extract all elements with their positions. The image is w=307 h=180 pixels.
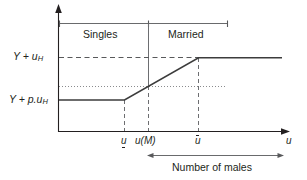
- payoff-curve: [59, 58, 282, 100]
- y-tick-upper-subscript: H: [38, 54, 43, 63]
- y-tick-label-upper: Y + uH: [13, 51, 43, 63]
- x-tick-u-lower-glyph: u: [121, 136, 127, 146]
- region-label-singles: Singles: [83, 29, 117, 40]
- caption-arrow-group: [147, 153, 284, 158]
- underbar-accent: [122, 147, 126, 148]
- x-axis-arrowhead: [281, 128, 290, 135]
- chart-canvas: [0, 0, 307, 180]
- x-tick-u-upper-base: u: [195, 135, 201, 146]
- x-axis-name-label: u: [286, 136, 292, 146]
- y-axis-arrowhead: [55, 4, 62, 13]
- caption-arrow-right-head: [278, 153, 285, 158]
- x-tick-u-upper-glyph: u: [195, 136, 201, 146]
- guide-lines-group: [59, 58, 226, 132]
- y-tick-lower-prefix: Y + p.u: [9, 93, 42, 105]
- caption-arrow-left-head: [147, 153, 154, 158]
- region-label-married: Married: [168, 29, 204, 40]
- x-tick-label-um: u(M): [135, 136, 156, 146]
- x-tick-label-u-lower: u: [121, 136, 127, 146]
- y-tick-label-lower: Y + p.uH: [9, 94, 48, 106]
- y-tick-lower-subscript: H: [42, 97, 47, 106]
- overbar-accent: [196, 135, 200, 136]
- x-tick-u-lower-base: u: [121, 135, 127, 146]
- y-tick-upper-prefix: Y + u: [13, 50, 38, 62]
- caption-label: Number of males: [172, 162, 252, 173]
- x-tick-label-u-upper: u: [195, 136, 201, 146]
- economics-payoff-chart: Y + uH Y + p.uH Singles Married u u(M) u…: [0, 0, 307, 180]
